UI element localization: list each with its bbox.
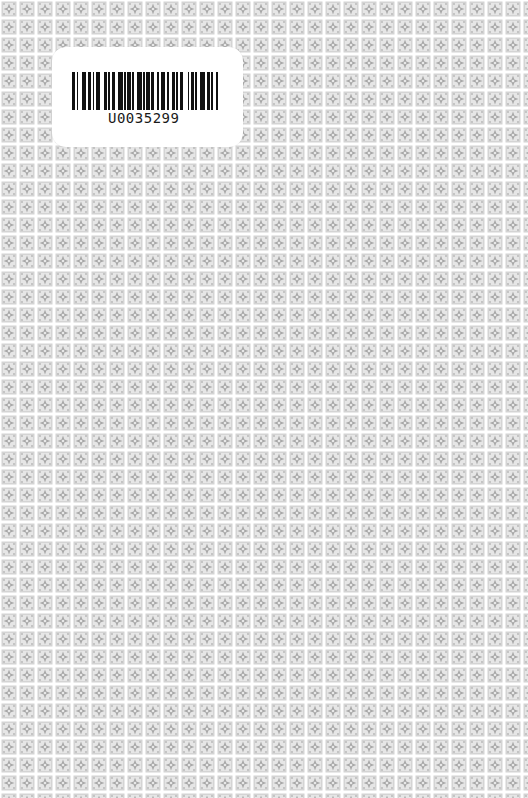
barcode [72,72,218,110]
barcode-bar [216,72,218,110]
barcode-label: U0035299 [52,47,243,147]
book-cover: U0035299 [0,0,528,798]
barcode-number: U0035299 [108,110,179,126]
